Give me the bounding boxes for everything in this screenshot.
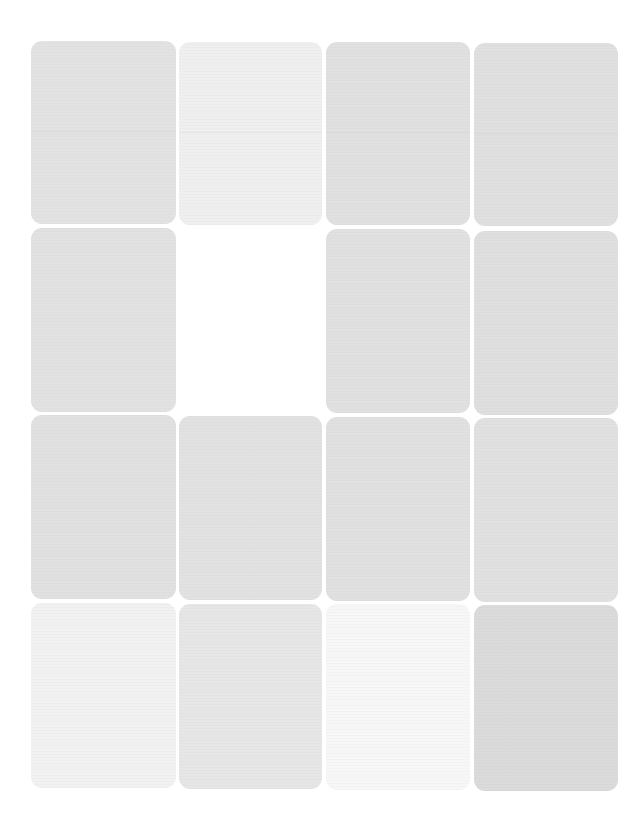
blank-tile: [474, 418, 618, 602]
blank-tile: [31, 228, 176, 412]
blank-tile: [474, 43, 618, 226]
fold-line: [326, 132, 470, 133]
blank-tile: [179, 604, 322, 789]
blank-tile: [326, 604, 470, 790]
blank-tile: [31, 41, 176, 224]
blank-tile: [326, 42, 470, 225]
blank-tile: [31, 415, 176, 599]
fold-line: [179, 132, 322, 133]
blank-tile: [326, 229, 470, 413]
blank-tile: [326, 417, 470, 601]
blank-tile: [474, 231, 618, 415]
blank-tile: [31, 603, 176, 788]
fold-line: [474, 133, 618, 134]
empty-tile-slot: [179, 229, 322, 413]
blank-tile: [179, 42, 322, 225]
tile-sheet: [0, 0, 644, 840]
blank-tile: [474, 605, 618, 791]
fold-line: [31, 131, 176, 132]
blank-tile: [179, 416, 322, 600]
